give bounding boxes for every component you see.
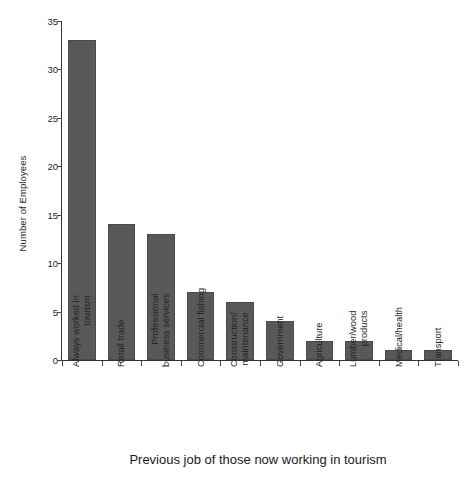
y-axis-tick-label: 10 xyxy=(6,258,58,269)
y-axis-tick-label: 35 xyxy=(6,16,58,27)
y-axis-tick-label: 30 xyxy=(6,64,58,75)
x-axis-tick-mark xyxy=(141,361,142,366)
y-axis-tick-mark xyxy=(57,215,62,216)
y-axis-tick-label: 5 xyxy=(6,306,58,317)
category-label-line: Agriculture xyxy=(314,323,325,367)
y-axis-tick-label: 15 xyxy=(6,209,58,220)
y-axis-tick-mark xyxy=(57,312,62,313)
category-label-line: Retail trade xyxy=(116,319,127,367)
x-axis-tick-mark xyxy=(102,361,103,366)
category-label-line: business services xyxy=(161,294,172,367)
y-axis-tick-mark xyxy=(57,118,62,119)
category-label-line: products xyxy=(359,311,370,367)
x-axis-tick-mark xyxy=(339,361,340,366)
x-axis-tick-mark xyxy=(379,361,380,366)
category-label-line: Lumber/wood xyxy=(348,311,359,367)
x-axis-tick-mark xyxy=(260,361,261,366)
y-axis-tick-label: 0 xyxy=(6,355,58,366)
x-axis-tick-mark xyxy=(62,361,63,366)
x-axis-tick-mark xyxy=(418,361,419,366)
y-axis-line xyxy=(61,21,62,361)
category-label-line: Transport xyxy=(433,328,444,367)
x-axis-tick-mark xyxy=(300,361,301,366)
x-axis-tick-mark xyxy=(181,361,182,366)
category-label-line: maintenance xyxy=(240,312,251,367)
x-axis-title: Previous job of those now working in tou… xyxy=(0,452,476,467)
x-axis-tick-mark xyxy=(220,361,221,366)
bar-chart: Number of Employees 05101520253035 Previ… xyxy=(0,0,476,480)
y-axis-tick-label: 25 xyxy=(6,112,58,123)
y-axis-tick-mark xyxy=(57,263,62,264)
category-label-line: Construction/ xyxy=(229,312,240,367)
y-axis-tick-label: 20 xyxy=(6,161,58,172)
y-axis-tick-mark xyxy=(57,69,62,70)
category-label-line: Professional xyxy=(150,294,161,367)
x-axis-tick-mark xyxy=(458,361,459,366)
category-label-line: Government xyxy=(275,316,286,367)
category-label-line: Always worked in xyxy=(71,295,82,367)
category-label-line: tourism xyxy=(81,295,92,367)
category-label-line: Medical/health xyxy=(394,307,405,367)
y-axis-tick-mark xyxy=(57,21,62,22)
y-axis-tick-mark xyxy=(57,166,62,167)
category-label-line: Commercial fishing xyxy=(196,288,207,367)
